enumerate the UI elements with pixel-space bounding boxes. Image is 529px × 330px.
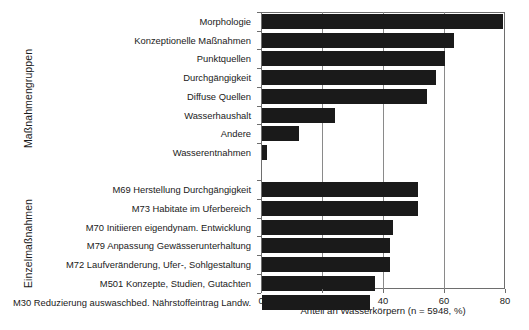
y-axis-tick	[257, 49, 261, 50]
plot-area: 020406080	[261, 12, 505, 289]
category-label: Andere	[221, 129, 251, 139]
bar	[262, 238, 390, 253]
y-axis-tick	[257, 255, 261, 256]
category-label: M69 Herstellung Durchgängigkeit	[112, 185, 251, 195]
category-label: Wasserhaushalt	[184, 111, 251, 121]
category-label: Punktquellen	[197, 54, 251, 64]
category-label: Diffuse Quellen	[187, 92, 251, 102]
bar	[262, 126, 299, 141]
x-axis-label: Anteil an Wasserkörpern (n = 5948, %)	[261, 305, 505, 316]
bar	[262, 33, 454, 48]
y-axis-tick	[257, 218, 261, 219]
y-axis-tick	[257, 274, 261, 275]
y-axis-tick	[257, 124, 261, 125]
x-axis-tick	[505, 289, 506, 293]
bar-chart-figure: Maßnahmengruppen Einzelmaßnahmen Morphol…	[0, 0, 529, 330]
bar	[262, 201, 418, 216]
category-label: M501 Konzepte, Studien, Gutachten	[100, 279, 251, 289]
category-label: M72 Laufveränderung, Ufer-, Sohlgestaltu…	[66, 260, 251, 270]
x-axis-tick	[383, 289, 384, 293]
bar	[262, 51, 445, 66]
bar	[262, 108, 335, 123]
category-label: M30 Reduzierung auswaschbed. Nährstoffei…	[13, 298, 251, 308]
bar	[262, 182, 418, 197]
category-label: Wasserentnahmen	[173, 148, 251, 158]
y-axis-tick	[257, 12, 261, 13]
category-label: Durchgängigkeit	[183, 73, 251, 83]
y-axis-tick	[257, 106, 261, 107]
category-label: M79 Anpassung Gewässerunterhaltung	[87, 241, 251, 251]
category-label: Konzeptionelle Maßnahmen	[134, 36, 251, 46]
bar	[262, 257, 390, 272]
bar	[262, 70, 436, 85]
y-axis-tick	[257, 143, 261, 144]
category-label: M73 Habitate im Uferbereich	[132, 204, 251, 214]
x-axis-tick	[444, 289, 445, 293]
bar	[262, 220, 393, 235]
bar	[262, 14, 503, 29]
category-label-column: MorphologieKonzeptionelle MaßnahmenPunkt…	[30, 0, 256, 330]
bar	[262, 145, 267, 160]
bar	[262, 89, 427, 104]
y-axis-tick	[257, 31, 261, 32]
bar	[262, 276, 375, 291]
category-label: M70 Initiieren eigendynam. Entwicklung	[86, 223, 251, 233]
y-axis-tick	[257, 68, 261, 69]
plot-frame-right	[504, 12, 505, 289]
x-axis-tick	[322, 289, 323, 293]
category-label: Morphologie	[199, 17, 251, 27]
x-axis-tick	[261, 289, 262, 293]
y-axis-tick	[257, 236, 261, 237]
y-axis-tick	[257, 180, 261, 181]
y-axis-tick	[257, 199, 261, 200]
y-axis-tick	[257, 87, 261, 88]
